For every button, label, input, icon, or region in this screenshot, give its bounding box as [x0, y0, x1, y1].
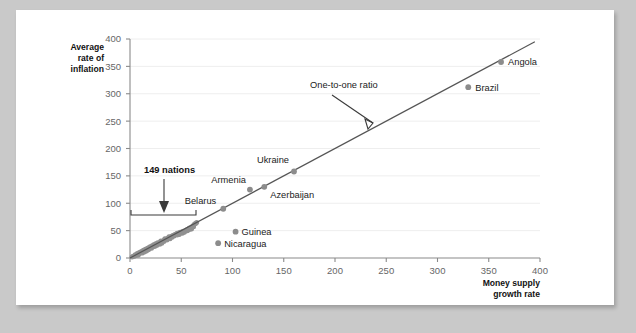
x-axis-title-line: growth rate — [493, 289, 540, 299]
y-axis-tick-label: 50 — [110, 225, 121, 236]
chart-card: 050100150200250300350400 050100150200250… — [16, 10, 614, 305]
point-label-brazil: Brazil — [475, 83, 498, 93]
y-axis-tick-label: 200 — [105, 143, 121, 154]
y-axis-title-line: rate of — [78, 53, 104, 63]
y-axis-title: Averagerate ofinflation — [70, 42, 104, 74]
y-axis-tick-label: 400 — [105, 33, 121, 44]
point-label-azerbaijan: Azerbaijan — [270, 190, 314, 200]
y-axis-title-line: Average — [70, 42, 104, 52]
data-point-angola — [498, 59, 504, 65]
x-axis-tick-label: 100 — [225, 265, 241, 276]
y-axis-tick-label: 100 — [105, 198, 121, 209]
data-point-armenia — [247, 187, 253, 193]
point-label-nicaragua: Nicaragua — [224, 239, 267, 249]
point-label-angola: Angola — [508, 57, 538, 67]
data-point-brazil — [465, 84, 471, 90]
y-axis-tick-label: 250 — [105, 116, 121, 127]
x-axis-tick-label: 350 — [481, 265, 497, 276]
point-label-belarus: Belarus — [185, 196, 217, 206]
x-axis-tick-label: 300 — [430, 265, 446, 276]
data-point-azerbaijan — [261, 184, 267, 190]
inflation-money-supply-scatter: 050100150200250300350400 050100150200250… — [16, 10, 614, 305]
x-axis-tick-label: 200 — [327, 265, 343, 276]
x-axis-tick-label: 150 — [276, 265, 292, 276]
x-axis-title: Money supplygrowth rate — [483, 278, 541, 299]
data-point-guinea — [233, 229, 239, 235]
y-axis-tick-label: 300 — [105, 88, 121, 99]
data-point-belarus — [220, 206, 226, 212]
y-axis-tick-label: 150 — [105, 170, 121, 181]
point-label-armenia: Armenia — [211, 175, 246, 185]
nations-count-label: 149 nations — [144, 165, 195, 175]
point-label-guinea: Guinea — [242, 227, 273, 237]
data-point-nicaragua — [215, 240, 221, 246]
y-axis-tick-label: 350 — [105, 61, 121, 72]
x-axis-tick-label: 50 — [176, 265, 187, 276]
one-to-one-label: One-to-one ratio — [310, 80, 378, 90]
x-axis-tick-label: 250 — [378, 265, 394, 276]
one-to-one-reference-line — [130, 42, 535, 258]
149-nations-annotation: 149 nations — [131, 165, 196, 215]
one-to-one-annotation: One-to-one ratio — [310, 80, 378, 129]
y-axis-ticks-group: 050100150200250300350400 — [105, 33, 130, 263]
point-label-ukraine: Ukraine — [257, 155, 289, 165]
x-axis-ticks-group: 050100150200250300350400 — [127, 258, 548, 276]
x-axis-tick-label: 400 — [532, 265, 548, 276]
chart-plot-area: 050100150200250300350400 050100150200250… — [16, 10, 614, 305]
y-axis-title-line: inflation — [71, 64, 104, 74]
x-axis-title-line: Money supply — [483, 278, 541, 288]
x-axis-tick-label: 0 — [127, 265, 132, 276]
y-axis-tick-label: 0 — [116, 252, 121, 263]
data-point-ukraine — [291, 169, 297, 175]
